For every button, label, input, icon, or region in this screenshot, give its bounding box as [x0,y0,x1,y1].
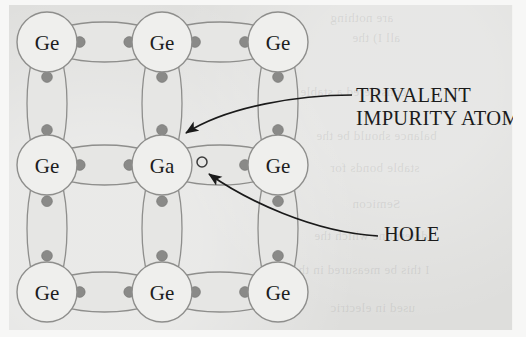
atom-symbol-label: Ge [266,154,291,178]
callout-line-1: HOLE [384,223,440,246]
atom-symbol-label: Ga [150,154,175,178]
atom-symbol-label: Ge [266,281,291,305]
atom-symbol-label: Ge [150,281,175,305]
host-atom-ge: Ge [248,12,308,72]
valence-electron-dot [42,125,53,136]
host-atom-ge: Ge [132,12,192,72]
valence-electron-dot [273,72,284,83]
host-atom-ge: Ge [17,135,77,195]
atom-symbol-label: Ge [266,31,291,55]
host-atom-ge: Ge [248,262,308,322]
atom-symbol-label: Ge [35,281,60,305]
atom-layer: GeGeGeGeGaGeGeGeGe [17,12,308,322]
atom-symbol-label: Ge [150,31,175,55]
valence-electron-dot [273,196,284,207]
crystal-lattice-diagram: GeGeGeGeGaGeGeGeGe [0,0,526,337]
valence-electron-dot [157,250,168,261]
host-atom-ge: Ge [132,262,192,322]
callout-line-1: TRIVALENT [356,84,520,107]
figure-page: are nothingall I) theconsidered a stable… [0,0,526,337]
valence-electron-dot [157,196,168,207]
atom-symbol-label: Ge [35,154,60,178]
atom-symbol-label: Ge [35,31,60,55]
host-atom-ge: Ge [248,135,308,195]
valence-electron-dot [42,196,53,207]
valence-electron-dot [42,250,53,261]
host-atom-ge: Ge [17,262,77,322]
impurity-atom-ga: Ga [132,135,192,195]
valence-electron-dot [273,250,284,261]
callout-label-trivalent-impurity-atom: TRIVALENT IMPURITY ATOM [356,84,520,131]
valence-electron-dot [157,125,168,136]
valence-electron-dot [42,72,53,83]
valence-electron-dot [157,72,168,83]
callout-label-hole: HOLE [384,223,440,246]
valence-electron-dot [273,125,284,136]
host-atom-ge: Ge [17,12,77,72]
callout-line-2: IMPURITY ATOM [356,107,520,130]
